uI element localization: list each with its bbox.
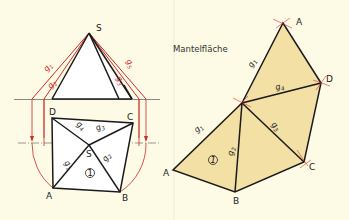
plan-view: D C S A B g4 g3 g1 g2 1 [18, 99, 160, 203]
plan-label-c: C [127, 112, 133, 122]
dev-label-a-top: A [296, 17, 303, 27]
plan-label-b: B [122, 193, 128, 203]
dev-label-g1-top: g1 [246, 57, 259, 69]
drawing-canvas: S g1 g2 g5 g3 D C [0, 0, 349, 220]
label-g1: g1 [42, 61, 55, 74]
plan-label-a: A [46, 191, 53, 201]
dev-label-b: B [233, 196, 239, 206]
label-apex-s: S [96, 23, 102, 33]
dev-label-a-left: A [163, 168, 170, 178]
plan-label-d: D [49, 107, 56, 117]
plan-label-s: S [86, 149, 92, 159]
dev-face-number: 1 [210, 155, 216, 165]
development-title: Mantelfläche [173, 44, 228, 54]
dev-label-c: C [309, 162, 315, 172]
dev-label-d: D [326, 74, 333, 84]
dev-label-g1-left: g1 [192, 122, 205, 135]
plan-face-number: 1 [87, 168, 93, 178]
development-view: Mantelfläche A D C A B g1 g4 [163, 17, 333, 206]
elevation-fill [52, 33, 132, 99]
label-g5: g5 [123, 58, 136, 71]
